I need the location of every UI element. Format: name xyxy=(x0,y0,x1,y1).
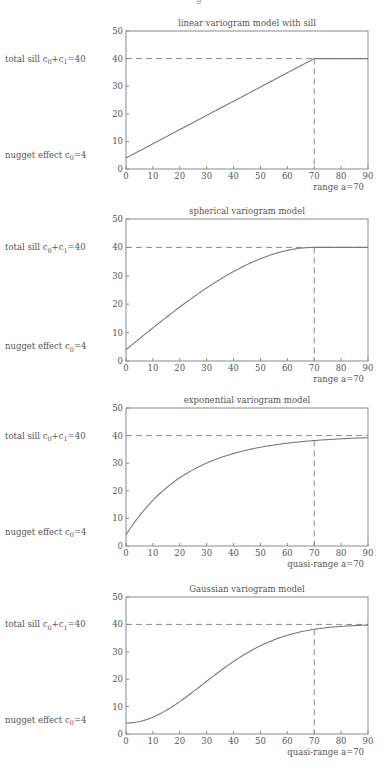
range-label: quasi-range a=70 xyxy=(287,747,364,757)
variogram-panel-gaussian: Gaussian variogram model0102030405001020… xyxy=(0,0,392,771)
x-tick-label: 0 xyxy=(123,736,128,746)
chart-title: Gaussian variogram model xyxy=(189,584,305,594)
nugget-effect-label: nugget effect c0​=4 xyxy=(5,715,86,728)
x-tick-label: 30 xyxy=(201,736,212,746)
y-tick-label: 0 xyxy=(118,729,123,739)
variogram-curve xyxy=(126,625,368,723)
x-tick-label: 60 xyxy=(282,736,293,746)
y-tick-label: 20 xyxy=(112,674,123,684)
plot-frame xyxy=(126,597,368,734)
total-sill-label: total sill c0​+c1​=40 xyxy=(5,619,86,632)
y-tick-label: 40 xyxy=(112,619,123,629)
x-tick-label: 20 xyxy=(174,736,185,746)
x-tick-label: 80 xyxy=(336,736,347,746)
x-tick-label: 50 xyxy=(255,736,266,746)
x-tick-label: 90 xyxy=(363,736,374,746)
y-tick-label: 50 xyxy=(112,592,123,602)
y-tick-label: 30 xyxy=(112,647,123,657)
x-tick-label: 10 xyxy=(147,736,158,746)
x-tick-label: 70 xyxy=(309,736,320,746)
x-tick-label: 40 xyxy=(228,736,239,746)
y-tick-label: 10 xyxy=(112,702,123,712)
